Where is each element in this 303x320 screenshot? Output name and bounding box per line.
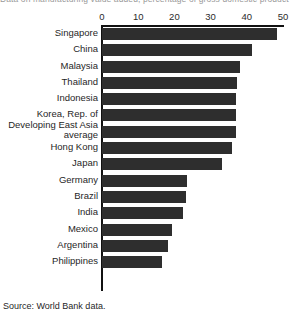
bar-category-label: China <box>0 43 98 54</box>
x-tick-30: 30 <box>205 11 216 22</box>
bar-row: Thailand <box>0 76 303 92</box>
bar-category-label: Japan <box>0 157 98 168</box>
bar <box>102 77 237 89</box>
bar-row: Malaysia <box>0 60 303 76</box>
bar-row: Indonesia <box>0 92 303 108</box>
source-note: Source: World Bank data. <box>3 301 105 311</box>
bar <box>102 142 232 154</box>
bar-category-label: Philippines <box>0 255 98 266</box>
x-tick-20: 20 <box>169 11 180 22</box>
bar-category-label: India <box>0 206 98 217</box>
bar-row: Brazil <box>0 190 303 206</box>
bar-category-label: Brazil <box>0 190 98 201</box>
bar-category-label: Indonesia <box>0 92 98 103</box>
x-tick-10: 10 <box>133 11 144 22</box>
bar-row: Japan <box>0 157 303 173</box>
bar <box>102 158 222 170</box>
bar-row: Germany <box>0 174 303 190</box>
bar <box>102 28 277 40</box>
bar-row: Hong Kong <box>0 141 303 157</box>
bar-row: Developing East Asia average <box>0 125 303 141</box>
bar-chart: 01020304050 SingaporeChinaMalaysiaThaila… <box>0 0 303 320</box>
x-tick-50: 50 <box>278 11 289 22</box>
bar-series: SingaporeChinaMalaysiaThailandIndonesiaK… <box>0 27 303 271</box>
bar <box>102 224 172 236</box>
bar-category-label: Korea, Rep. of <box>0 108 98 119</box>
bar-category-label: Argentina <box>0 239 98 250</box>
x-tick-40: 40 <box>242 11 253 22</box>
bar-row: Philippines <box>0 255 303 271</box>
x-tick-0: 0 <box>99 11 104 22</box>
bar-row: India <box>0 206 303 222</box>
bar <box>102 93 236 105</box>
bar-category-label: Developing East Asia average <box>0 120 98 141</box>
x-axis-tick-labels: 01020304050 <box>0 11 303 23</box>
bar <box>102 191 186 203</box>
bar <box>102 44 252 56</box>
bar-category-label: Mexico <box>0 223 98 234</box>
bar <box>102 175 187 187</box>
bar-category-label: Singapore <box>0 27 98 38</box>
bar-row: Argentina <box>0 239 303 255</box>
bar <box>102 256 162 268</box>
bar <box>102 207 183 219</box>
bar-category-label: Germany <box>0 174 98 185</box>
bar <box>102 240 168 252</box>
bar-row: Mexico <box>0 223 303 239</box>
bar-row: China <box>0 43 303 59</box>
bar-row: Singapore <box>0 27 303 43</box>
bar-category-label: Malaysia <box>0 60 98 71</box>
bar-category-label: Thailand <box>0 76 98 87</box>
bar <box>102 126 236 138</box>
bar <box>102 109 236 121</box>
bar <box>102 61 240 73</box>
bar-category-label: Hong Kong <box>0 141 98 152</box>
